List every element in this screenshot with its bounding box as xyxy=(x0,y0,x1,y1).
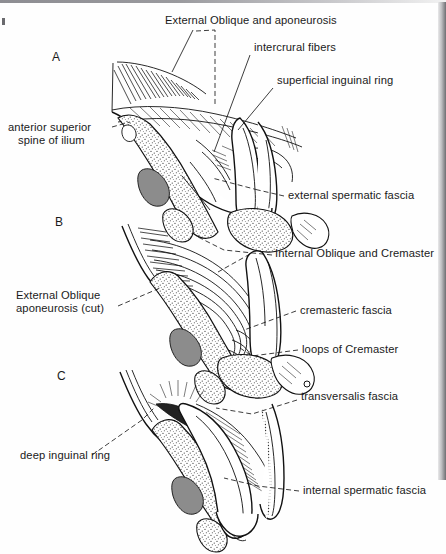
pubic-structure-b xyxy=(228,209,329,252)
label-intercrural-fibers: intercrural fibers xyxy=(254,41,336,53)
label-internal-spermatic-fascia: internal spermatic fascia xyxy=(303,484,427,496)
leader-superficial-inguinal-ring xyxy=(238,88,273,130)
panel-a-illustration xyxy=(112,30,302,242)
label-external-oblique-and-aponeurosis: External Oblique and aponeurosis xyxy=(165,14,337,26)
label-loops-of-cremaster: loops of Cremaster xyxy=(302,343,398,355)
label-internal-oblique-and-cremaster: Internal Oblique and Cremaster xyxy=(275,247,434,259)
label-superficial-inguinal-ring: superficial inguinal ring xyxy=(277,74,393,86)
leader-external-oblique-muscle xyxy=(172,30,193,72)
label-external-oblique-aponeurosis-cut-line1: External Oblique xyxy=(16,289,100,301)
label-external-oblique-aponeurosis-cut-line2: aponeurosis (cut) xyxy=(16,302,104,314)
pubic-structure-c xyxy=(218,355,315,398)
label-deep-inguinal-ring: deep inguinal ring xyxy=(20,449,110,461)
cord-surface-hatching-a xyxy=(282,126,298,152)
label-anterior-superior-spine-line2: spine of ilium xyxy=(18,134,85,146)
label-anterior-superior-spine-line1: anterior superior xyxy=(8,121,91,133)
label-cremasteric-fascia: cremasteric fascia xyxy=(300,304,393,316)
label-layer: A B C External Oblique and aponeurosis i… xyxy=(8,14,434,496)
panel-letter-c: C xyxy=(57,369,66,383)
label-external-spermatic-fascia: external spermatic fascia xyxy=(288,189,415,201)
leader-external-oblique-aponeurosis xyxy=(196,30,215,106)
anatomical-illustration: A B C External Oblique and aponeurosis i… xyxy=(0,0,446,554)
figure-page: A B C External Oblique and aponeurosis i… xyxy=(0,0,446,554)
panel-letter-b: B xyxy=(55,215,63,229)
external-oblique-muscle-hatching xyxy=(112,62,206,112)
leader-external-oblique-aponeurosis-cut xyxy=(118,288,160,306)
label-transversalis-fascia: transversalis fascia xyxy=(301,390,399,402)
leader-transversalis-fascia xyxy=(216,400,297,414)
panel-letter-a: A xyxy=(52,50,60,64)
